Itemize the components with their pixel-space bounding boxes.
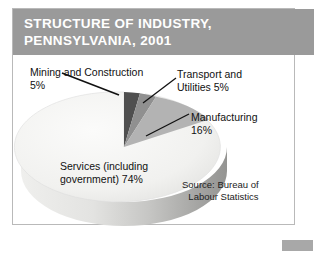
page-title-line-1: STRUCTURE OF INDUSTRY, bbox=[24, 15, 314, 32]
label-transport-line-1: Transport and bbox=[177, 68, 242, 81]
label-transport-line-2: Utilities 5% bbox=[177, 81, 242, 94]
label-manufacturing: Manufacturing 16% bbox=[191, 111, 258, 136]
chart-title-banner: STRUCTURE OF INDUSTRY, PENNSYLVANIA, 200… bbox=[13, 9, 314, 55]
source-note-line-1: Source: Bureau of bbox=[182, 179, 259, 191]
label-services-line-1: Services (including bbox=[60, 160, 148, 173]
source-note: Source: Bureau of Labour Statistics bbox=[182, 179, 259, 203]
label-mining-and-construction: Mining and Construction 5% bbox=[30, 66, 143, 91]
figure-container: STRUCTURE OF INDUSTRY, PENNSYLVANIA, 200… bbox=[0, 0, 314, 255]
label-transport-and-utilities: Transport and Utilities 5% bbox=[177, 68, 242, 93]
label-mining-line-2: 5% bbox=[30, 79, 143, 92]
label-manufacturing-line-2: 16% bbox=[191, 124, 258, 137]
source-note-line-2: Labour Statistics bbox=[182, 191, 259, 203]
label-mining-line-1: Mining and Construction bbox=[30, 66, 143, 79]
corner-swatch bbox=[282, 240, 313, 251]
label-services-line-2: government) 74% bbox=[60, 173, 148, 186]
page-title-line-2: PENNSYLVANIA, 2001 bbox=[24, 32, 314, 49]
label-manufacturing-line-1: Manufacturing bbox=[191, 111, 258, 124]
label-services: Services (including government) 74% bbox=[60, 160, 148, 185]
